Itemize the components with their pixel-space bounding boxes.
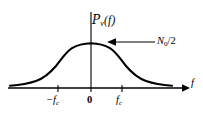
annotation-arrowhead <box>107 38 116 45</box>
tick-neg-fc-subscript: c <box>56 99 59 107</box>
tick-neg-fc-main: −f <box>46 94 56 105</box>
tick-pos-fc-subscript: c <box>119 99 122 107</box>
tick-label-pos-fc: fc <box>116 95 122 107</box>
x-axis-arrowhead <box>182 84 190 92</box>
y-axis-label: Pv(f) <box>92 14 115 28</box>
annotation-arrow <box>107 38 155 45</box>
y-axis-argument: (f) <box>104 14 115 26</box>
annotation-tail: /2 <box>168 35 176 46</box>
tick-label-zero: 0 <box>87 95 92 106</box>
annotation-main: N <box>157 35 164 46</box>
tick-label-neg-fc: −fc <box>46 95 59 107</box>
psd-figure: Pv(f) N0/2 −fc 0 fc f <box>0 0 203 117</box>
annotation-label: N0/2 <box>157 36 176 48</box>
x-axis-label: f <box>191 78 194 89</box>
